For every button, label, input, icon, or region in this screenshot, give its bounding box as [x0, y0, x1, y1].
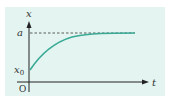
start-value-label: x0: [14, 64, 24, 77]
origin-label: O: [19, 83, 26, 94]
x-axis-arrow-icon: [142, 80, 149, 85]
chart-svg: x t a x0 O: [0, 0, 173, 104]
y-axis-arrow-icon: [27, 21, 32, 28]
x-axis-label: t: [152, 77, 157, 88]
y-axis-label: x: [26, 8, 32, 19]
curve-x-of-t: [30, 33, 135, 70]
asymptote-label: a: [17, 27, 23, 38]
